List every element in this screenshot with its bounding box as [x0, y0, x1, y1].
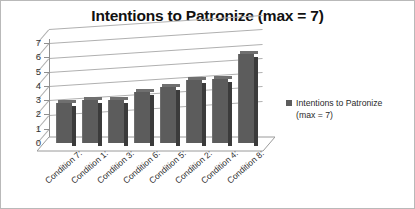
x-axis-labels: Condition 7:Condition 1:Condition 3:Cond…: [37, 149, 287, 207]
y-axis-tick-label: 2: [36, 110, 41, 120]
bar-top-face: [162, 84, 180, 87]
bar-top-face: [110, 97, 128, 100]
square-marker-icon: [286, 100, 292, 106]
chart-legend: Intentions to Patronize (max = 7): [286, 98, 411, 121]
y-axis-tick-label: 4: [36, 81, 41, 91]
legend-label: Intentions to Patronize (max = 7): [296, 98, 382, 121]
y-axis-tick-label: 3: [36, 95, 41, 105]
y-axis-tick-label: 1: [36, 124, 41, 134]
bar-side-face: [124, 103, 128, 146]
bar-side-face: [150, 95, 154, 146]
bar-side-face: [254, 57, 258, 146]
bar[interactable]: [82, 100, 98, 143]
bar-top-face: [188, 77, 206, 80]
bar-top-face: [136, 89, 154, 92]
y-axis-tick-label: 5: [36, 67, 41, 77]
bar-top-face: [58, 100, 76, 103]
bar-top-face: [214, 76, 232, 79]
bars-layer: [49, 39, 275, 143]
bar-side-face: [202, 83, 206, 146]
bar-side-face: [228, 82, 232, 146]
y-axis-tick-label: 6: [36, 53, 41, 63]
bar[interactable]: [56, 103, 72, 143]
bar-top-face: [240, 51, 258, 54]
legend-label-line2: (max = 7): [296, 110, 333, 120]
legend-label-line1: Intentions to Patronize: [296, 98, 382, 108]
chart-title: Intentions to Patronize (max = 7): [1, 7, 414, 25]
bar[interactable]: [238, 54, 254, 143]
chart-container: Intentions to Patronize (max = 7) 012345…: [0, 0, 415, 209]
bar-top-face: [84, 97, 102, 100]
legend-item: Intentions to Patronize (max = 7): [286, 98, 411, 121]
y-axis-tick-label: 7: [36, 38, 41, 48]
bar[interactable]: [186, 80, 202, 143]
bar[interactable]: [212, 79, 228, 143]
bar-side-face: [72, 106, 76, 146]
plot-area: 01234567: [37, 39, 275, 151]
bar[interactable]: [160, 87, 176, 143]
bar[interactable]: [108, 100, 124, 143]
bar-side-face: [98, 103, 102, 146]
bar[interactable]: [134, 92, 150, 143]
bar-side-face: [176, 90, 180, 146]
